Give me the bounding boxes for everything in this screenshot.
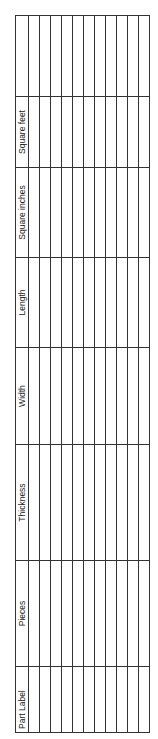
table-cell[interactable] (51, 667, 62, 733)
table-cell[interactable] (106, 97, 117, 168)
table-cell[interactable] (106, 258, 117, 348)
table-cell[interactable] (84, 445, 95, 561)
table-cell[interactable] (73, 97, 84, 168)
table-cell[interactable] (62, 258, 73, 348)
table-cell[interactable] (95, 348, 106, 445)
table-cell[interactable] (40, 445, 51, 561)
table-cell[interactable] (95, 445, 106, 561)
table-cell[interactable] (84, 667, 95, 733)
table-cell[interactable] (84, 97, 95, 168)
table-cell[interactable] (51, 97, 62, 168)
table-cell[interactable] (117, 445, 128, 561)
table-cell[interactable] (128, 168, 139, 258)
table-cell[interactable] (139, 16, 150, 97)
table-cell[interactable] (128, 16, 139, 97)
table-row (139, 16, 150, 733)
table-cell[interactable] (117, 258, 128, 348)
table-row (95, 16, 106, 733)
table-cell[interactable] (106, 561, 117, 667)
table-cell[interactable] (117, 97, 128, 168)
table-cell[interactable] (139, 445, 150, 561)
table-cell[interactable] (84, 561, 95, 667)
table-cell[interactable] (40, 168, 51, 258)
cut-list-table: Part Label Pieces Thickness Width Length… (15, 15, 150, 733)
table-cell[interactable] (128, 97, 139, 168)
table-cell[interactable] (106, 16, 117, 97)
table-cell[interactable] (84, 258, 95, 348)
table-cell[interactable] (51, 445, 62, 561)
table-cell[interactable] (40, 16, 51, 97)
table-cell[interactable] (51, 168, 62, 258)
table-cell[interactable] (40, 667, 51, 733)
table-cell[interactable] (29, 561, 40, 667)
table-cell[interactable] (139, 561, 150, 667)
table-cell[interactable] (139, 667, 150, 733)
table-cell[interactable] (40, 561, 51, 667)
table-cell[interactable] (117, 561, 128, 667)
table-cell[interactable] (29, 667, 40, 733)
table-cell[interactable] (139, 258, 150, 348)
table-cell[interactable] (51, 348, 62, 445)
table-cell[interactable] (62, 348, 73, 445)
table-cell[interactable] (128, 445, 139, 561)
table-cell[interactable] (128, 348, 139, 445)
table-cell[interactable] (62, 445, 73, 561)
table-row (51, 16, 62, 733)
table-cell[interactable] (95, 667, 106, 733)
header-length: Length (16, 258, 29, 348)
table-cell[interactable] (29, 97, 40, 168)
table-cell[interactable] (73, 168, 84, 258)
table-cell[interactable] (40, 348, 51, 445)
table-cell[interactable] (29, 16, 40, 97)
table-cell[interactable] (29, 445, 40, 561)
table-cell[interactable] (62, 97, 73, 168)
table-cell[interactable] (51, 561, 62, 667)
table-cell[interactable] (95, 168, 106, 258)
table-cell[interactable] (29, 258, 40, 348)
table-cell[interactable] (128, 561, 139, 667)
table-cell[interactable] (51, 258, 62, 348)
header-blank (16, 16, 29, 97)
table-cell[interactable] (117, 168, 128, 258)
table-cell[interactable] (40, 97, 51, 168)
table-cell[interactable] (128, 258, 139, 348)
table-cell[interactable] (106, 168, 117, 258)
table-cell[interactable] (106, 348, 117, 445)
table-cell[interactable] (139, 348, 150, 445)
table-cell[interactable] (84, 168, 95, 258)
table-cell[interactable] (95, 16, 106, 97)
table-cell[interactable] (84, 16, 95, 97)
table-cell[interactable] (51, 16, 62, 97)
table-cell[interactable] (117, 348, 128, 445)
table-row (62, 16, 73, 733)
header-part-label: Part Label (16, 667, 29, 733)
table-cell[interactable] (29, 168, 40, 258)
table-cell[interactable] (95, 561, 106, 667)
header-square-feet: Square feet (16, 97, 29, 168)
table-cell[interactable] (62, 667, 73, 733)
table-cell[interactable] (62, 168, 73, 258)
table-row (29, 16, 40, 733)
table-cell[interactable] (106, 445, 117, 561)
table-cell[interactable] (73, 667, 84, 733)
table-cell[interactable] (117, 16, 128, 97)
table-cell[interactable] (73, 445, 84, 561)
table-cell[interactable] (106, 667, 117, 733)
table-cell[interactable] (139, 168, 150, 258)
table-cell[interactable] (139, 97, 150, 168)
table-cell[interactable] (95, 258, 106, 348)
table-cell[interactable] (62, 16, 73, 97)
header-row: Part Label Pieces Thickness Width Length… (16, 16, 29, 733)
table-cell[interactable] (73, 258, 84, 348)
table-cell[interactable] (95, 97, 106, 168)
table-cell[interactable] (73, 348, 84, 445)
table-cell[interactable] (73, 561, 84, 667)
table-cell[interactable] (117, 667, 128, 733)
table-cell[interactable] (84, 348, 95, 445)
table-cell[interactable] (40, 258, 51, 348)
table-row (117, 16, 128, 733)
table-cell[interactable] (73, 16, 84, 97)
table-cell[interactable] (128, 667, 139, 733)
table-cell[interactable] (62, 561, 73, 667)
table-cell[interactable] (29, 348, 40, 445)
